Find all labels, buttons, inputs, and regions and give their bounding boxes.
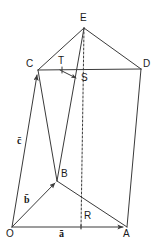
vector-label-b: b̄	[24, 195, 30, 205]
vertex-label-D: D	[143, 59, 150, 69]
vertex-label-O: O	[6, 229, 14, 239]
edge-B-C	[38, 70, 57, 181]
vertex-label-R: R	[84, 211, 91, 221]
edge-A-D	[127, 69, 141, 227]
diagram-canvas	[0, 0, 164, 246]
vertex-label-A: A	[123, 229, 130, 239]
edge-B-A	[57, 181, 127, 227]
edge-C-D	[38, 69, 141, 70]
vertex-label-T: T	[58, 56, 64, 66]
edge-B-E	[57, 28, 84, 181]
edge-D-E	[84, 28, 141, 69]
vector-label-c: c̄	[17, 136, 21, 146]
vertex-label-E: E	[80, 13, 87, 23]
vertex-label-B: B	[61, 169, 68, 179]
vector-label-a: ā	[59, 229, 64, 239]
vertex-label-S: S	[81, 73, 88, 83]
vertex-label-C: C	[26, 59, 33, 69]
geometry-diagram: O A B C D E R S T ā b̄ c̄	[0, 0, 164, 246]
